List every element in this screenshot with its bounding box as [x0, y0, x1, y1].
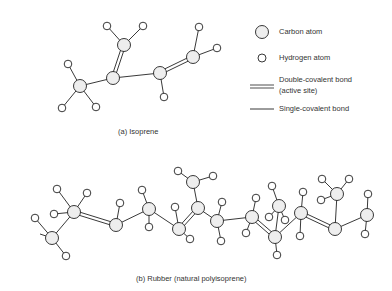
carbon-atom [107, 72, 120, 85]
legend-double-bond-label: Double-covalent bond [279, 76, 352, 84]
hydrogen-atom [318, 175, 326, 183]
carbon-atom [361, 209, 374, 222]
carbon-atom [192, 202, 205, 215]
hydrogen-atom [50, 210, 58, 218]
single-bond [113, 73, 160, 78]
hydrogen-atom [171, 203, 179, 211]
hydrogen-atom [139, 22, 147, 30]
carbon-atom [246, 211, 259, 224]
hydrogen-atom [217, 237, 225, 245]
carbon-atom [74, 80, 87, 93]
hydrogen-atom [195, 23, 203, 31]
hydrogen-atom [345, 175, 353, 183]
hydrogen-atom [361, 230, 369, 238]
hydrogen-atom [58, 104, 66, 112]
caption-isoprene: (a) Isoprene [118, 128, 158, 136]
hydrogen-atom [31, 214, 39, 222]
hydrogen-atom [299, 188, 307, 196]
hydrogen-atom [145, 223, 153, 231]
carbon-atom [68, 206, 81, 219]
carbon-atom [46, 232, 59, 245]
carbon-atom [154, 67, 167, 80]
carbon-atom [329, 223, 342, 236]
carbon-atom-legend-icon [256, 26, 269, 39]
legend-shapes [250, 26, 274, 110]
hydrogen-atom [281, 216, 289, 224]
carbon-atom [187, 176, 200, 189]
hydrogen-atom [64, 60, 72, 68]
hydrogen-atom [174, 167, 182, 175]
hydrogen-atom [218, 198, 226, 206]
hydrogen-atom [252, 194, 260, 202]
hydrogen-atom [83, 189, 91, 197]
legend-single-bond-label: Single-covalent bond [279, 105, 349, 113]
molecule-diagram [0, 0, 392, 291]
hydrogen-atom [209, 172, 217, 180]
hydrogen-atom [265, 213, 273, 221]
carbon-atom [269, 231, 282, 244]
carbon-atom [110, 219, 123, 232]
hydrogen-atom [273, 251, 281, 259]
carbon-atom [173, 223, 186, 236]
carbon-atom [331, 188, 344, 201]
hydrogen-atom [160, 93, 168, 101]
carbon-atom [187, 51, 200, 64]
hydrogen-atom [364, 190, 372, 198]
hydrogen-atom [103, 22, 111, 30]
hydrogen-atom-legend-icon [258, 54, 266, 62]
legend-carbon-label: Carbon atom [279, 28, 322, 36]
hydrogen-atom [92, 103, 100, 111]
legend-double-bond-sublabel: (active site) [279, 87, 317, 95]
legend-hydrogen-label: Hydrogen atom [279, 54, 330, 62]
hydrogen-atom [62, 252, 70, 260]
hydrogen-atom [116, 199, 124, 207]
hydrogen-atom [53, 185, 61, 193]
hydrogen-atom [242, 229, 250, 237]
hydrogen-atom [317, 196, 325, 204]
hydrogen-atom [138, 186, 146, 194]
hydrogen-atom [268, 182, 276, 190]
caption-rubber: (b) Rubber (natural polyisoprene) [136, 275, 246, 283]
carbon-atom [295, 207, 308, 220]
carbon-atom [273, 200, 286, 213]
carbon-atom [211, 215, 224, 228]
hydrogen-atom [186, 235, 194, 243]
carbon-atom [143, 203, 156, 216]
carbon-atom [118, 39, 131, 52]
hydrogen-atom [296, 232, 304, 240]
hydrogen-atom [213, 44, 221, 52]
